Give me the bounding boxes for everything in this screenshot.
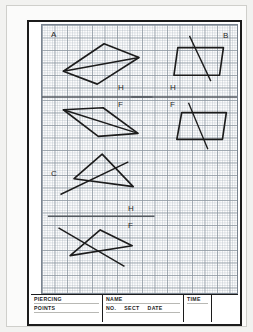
problem-a-lower-cutting-line [63, 110, 138, 134]
title-block-cell-name: NAME NO. SECT DATE [103, 295, 184, 322]
problem-b-lower-view [177, 103, 226, 149]
problem-c-upper-piercing-line [60, 162, 128, 195]
ref-label-h-right-top: H [170, 84, 176, 92]
name-rule [106, 303, 180, 304]
title-block-cell-blank [212, 295, 238, 322]
title-block-cell-piercing-points: PIERCING POINTS [31, 295, 103, 322]
binding-margin-strip [31, 24, 41, 294]
drawing-linework [42, 25, 237, 293]
problem-label-b: B [223, 32, 229, 40]
problem-label-a: A [51, 31, 57, 39]
problem-c-upper-triangle [74, 154, 133, 187]
ref-label-f-left-bottom: F [128, 222, 133, 230]
drawing-frame-border: A B C H F H F H F PIERCING POINTS [27, 20, 242, 326]
problem-c-lower-triangle [70, 230, 132, 256]
date-label: DATE [148, 306, 163, 311]
ref-label-f-right-top: F [170, 101, 175, 109]
title-block-cell-time: TIME [184, 295, 212, 322]
problem-c-lower-view [58, 228, 132, 266]
problem-c-upper-view [60, 154, 133, 194]
piercing-rule-1 [34, 303, 99, 304]
no-label: NO. [106, 306, 116, 311]
problem-a-lower-view [63, 108, 138, 137]
title-block: PIERCING POINTS NAME NO. SECT DATE [31, 294, 238, 322]
problem-c-lower-piercing-line [58, 228, 124, 266]
name-rule-2 [106, 312, 180, 313]
sect-label: SECT [124, 306, 139, 311]
problem-b-upper-piercing-line [189, 36, 210, 81]
name-subrow: NO. SECT DATE [106, 306, 180, 311]
problem-b-upper-view [174, 36, 223, 81]
problem-a-upper-view [63, 44, 139, 84]
problem-label-c: C [51, 170, 57, 178]
grid-paper-drawing-area: A B C H F H F H F [41, 24, 238, 294]
piercing-rule-2 [34, 312, 99, 313]
ref-label-f-left-top: F [118, 101, 123, 109]
piercing-label-line1: PIERCING [34, 297, 99, 302]
ref-label-h-left-top: H [118, 84, 124, 92]
piercing-label-line2: POINTS [34, 306, 99, 311]
time-label: TIME [187, 297, 208, 302]
screenshot-root: A B C H F H F H F PIERCING POINTS [0, 0, 253, 332]
time-rule [187, 303, 208, 304]
problem-b-upper-parallelogram [174, 48, 223, 76]
name-label: NAME [106, 297, 180, 302]
paper-sheet: A B C H F H F H F PIERCING POINTS [6, 5, 247, 327]
ref-label-h-left-bottom: H [128, 205, 134, 213]
problem-b-lower-piercing-line [188, 103, 207, 149]
